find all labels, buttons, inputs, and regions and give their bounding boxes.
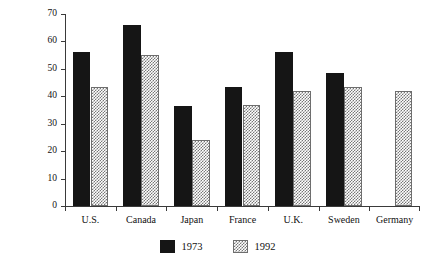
bar-canada-1973 [123,25,141,206]
y-axis-line [65,14,66,206]
y-tick-label-60: 60 [17,36,57,46]
legend-swatch-1973 [160,240,175,253]
x-tick-5 [319,206,320,211]
bar-sweden-1973 [326,73,344,206]
x-tick-2 [166,206,167,211]
x-axis-label-sweden: Sweden [319,214,370,225]
y-tick-label-10: 10 [17,174,57,184]
bar-france-1992 [243,105,261,206]
y-tick-70 [61,14,66,15]
plot-area: 010203040506070 U.S.CanadaJapanFranceU.K… [65,14,420,206]
x-tick-3 [217,206,218,211]
legend-label-1973: 1973 [182,241,203,252]
x-tick-4 [268,206,269,211]
legend-label-1992: 1992 [255,241,276,252]
x-axis-label-germany: Germany [369,214,420,225]
x-axis-label-uk: U.K. [268,214,319,225]
y-axis-title-line-1: (thousand tons oil equivalent per $1 mil… [2,0,13,14]
legend-item-1992: 1992 [233,240,276,253]
legend-swatch-1992 [233,240,248,253]
y-tick-label-70: 70 [17,9,57,19]
y-tick-30 [61,124,66,125]
x-tick-6 [369,206,370,211]
bar-germany-1992 [395,91,413,206]
y-tick-label-20: 20 [17,146,57,156]
chart-figure: (thousand tons oil equivalent per $1 mil… [0,0,435,271]
x-tick-end [419,206,420,211]
bar-japan-1992 [192,140,210,206]
bar-uk-1973 [275,52,293,206]
bar-uk-1992 [293,91,311,206]
y-tick-40 [61,96,66,97]
bar-japan-1973 [174,106,192,206]
x-tick-1 [116,206,117,211]
x-tick-0 [65,206,66,211]
y-tick-20 [61,151,66,152]
x-axis-label-france: France [217,214,268,225]
y-tick-60 [61,41,66,42]
legend-item-1973: 1973 [160,240,203,253]
y-tick-label-30: 30 [17,119,57,129]
bar-france-1973 [225,87,243,206]
y-tick-label-50: 50 [17,64,57,74]
chart-legend: 19731992 [0,240,435,253]
y-tick-label-0: 0 [17,201,57,211]
x-axis-line [65,206,420,207]
y-tick-label-40: 40 [17,91,57,101]
bar-us-1973 [73,52,91,206]
bar-us-1992 [91,87,109,206]
x-axis-label-us: U.S. [65,214,116,225]
y-tick-50 [61,69,66,70]
x-axis-label-japan: Japan [166,214,217,225]
y-tick-10 [61,179,66,180]
bar-canada-1992 [141,55,159,206]
bar-sweden-1992 [344,87,362,206]
x-axis-label-canada: Canada [116,214,167,225]
